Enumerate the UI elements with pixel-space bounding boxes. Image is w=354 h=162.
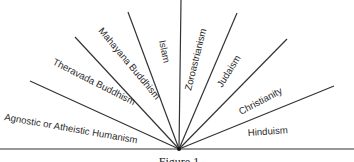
sector-label-hinduism: Hinduism [247,124,288,138]
figure-diagram: Agnostic or Atheistic HumanismTheravada … [0,0,354,162]
sector-label-agnostic-or-atheistic-humanism: Agnostic or Atheistic Humanism [4,111,139,145]
sector-label-zoroastrianism: Zoroastrianism [182,27,208,91]
sector-label-christianity: Christianity [237,85,284,117]
sector-label-islam: Islam [157,39,173,64]
vertex-point [177,147,181,151]
sector-labels: Agnostic or Atheistic HumanismTheravada … [4,25,288,145]
ray-line-3 [179,0,181,149]
figure-caption: Figure 1 [159,155,199,162]
ray-line-2 [128,12,179,149]
sector-label-judaism: Judaism [214,53,242,89]
